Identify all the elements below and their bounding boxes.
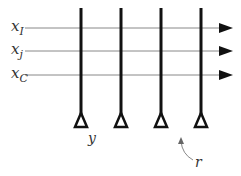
input-label-I: xI bbox=[11, 17, 24, 38]
arrow-head-icon bbox=[219, 46, 233, 56]
triangle-terminal-icon bbox=[75, 113, 87, 127]
input-label-C: xC bbox=[11, 64, 28, 85]
arrow-head-icon bbox=[219, 23, 233, 33]
output-columns bbox=[75, 8, 207, 127]
triangle-terminal-icon bbox=[155, 113, 167, 127]
triangle-terminal-icon bbox=[115, 113, 127, 127]
annotation-arrowhead-icon bbox=[178, 137, 184, 144]
triangle-terminal-icon bbox=[195, 113, 207, 127]
annotation-label: r bbox=[195, 154, 203, 170]
arrow-head-icon bbox=[219, 70, 233, 80]
output-label: y bbox=[87, 130, 97, 146]
input-label-j: xj bbox=[11, 40, 23, 61]
crossbar-diagram: xI xj xC y r bbox=[0, 0, 241, 176]
